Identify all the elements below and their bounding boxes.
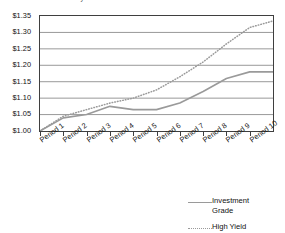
y-axis-label: $1.30 — [1, 28, 31, 36]
y-axis-label: $1.00 — [1, 127, 31, 135]
legend-label-line1: High Yield — [212, 222, 246, 231]
legend-item-investment-grade[interactable]: Investment Grade — [188, 196, 283, 215]
gridlines — [40, 32, 273, 114]
legend-swatch-solid-line-icon — [188, 198, 212, 207]
chart-title: Illustration of Returns by Period — [6, 0, 107, 1]
series-line-investment-grade — [40, 72, 273, 131]
y-axis-label: $1.15 — [1, 78, 31, 86]
y-axis-label: $1.20 — [1, 61, 31, 69]
plot-svg — [40, 16, 273, 131]
legend-swatch-dotted-line-icon — [188, 224, 212, 233]
chart-legend: Investment Grade High Yield — [188, 196, 283, 233]
legend-label-investment-grade: Investment Grade — [212, 196, 249, 215]
legend-label-line2: Grade — [212, 206, 233, 215]
plot-area — [39, 15, 274, 132]
y-axis-label: $1.10 — [1, 94, 31, 102]
y-axis-label: $1.05 — [1, 110, 31, 118]
line-chart: Illustration of Returns by Period $1.35$… — [0, 0, 285, 233]
y-axis-label: $1.25 — [1, 45, 31, 53]
y-axis-label: $1.35 — [1, 12, 31, 20]
legend-item-high-yield[interactable]: High Yield — [188, 222, 283, 233]
legend-label-line1: Investment — [212, 196, 249, 205]
legend-label-high-yield: High Yield — [212, 222, 246, 232]
